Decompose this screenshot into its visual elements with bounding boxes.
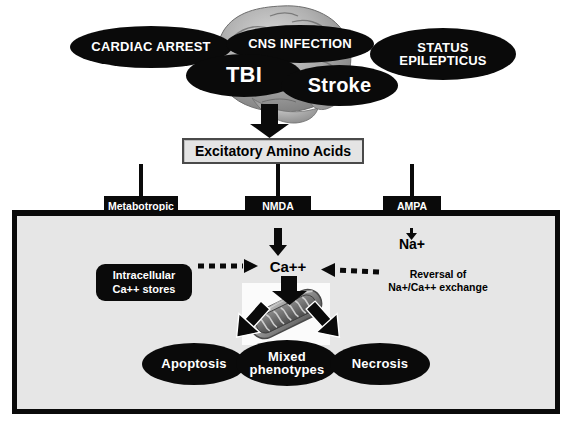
- insult-label: STATUS EPILEPTICUS: [399, 41, 486, 68]
- insult-label: CNS INFECTION: [248, 37, 352, 50]
- insult-status-epilepticus: STATUS EPILEPTICUS: [370, 28, 516, 80]
- outcome-label: Necrosis: [352, 357, 409, 370]
- sodium-text: Na+: [399, 236, 425, 252]
- insult-label-line2: EPILEPTICUS: [399, 53, 486, 68]
- insult-label: CARDIAC ARREST: [91, 40, 210, 53]
- store-label-line1: Intracellular: [113, 269, 175, 282]
- calcium-text: Ca++: [270, 258, 307, 275]
- excitatory-amino-acids-box: Excitatory Amino Acids: [182, 138, 364, 164]
- stem-eaa-to-nmda: [276, 164, 280, 197]
- outcome-mixed-phenotypes: Mixed phenotypes: [236, 340, 338, 386]
- stem-eaa-to-ampa: [410, 164, 414, 197]
- outcome-necrosis: Necrosis: [330, 343, 430, 385]
- outcome-label: Apoptosis: [161, 357, 226, 370]
- insult-stroke: Stroke: [281, 65, 398, 106]
- excitatory-amino-acids-label: Excitatory Amino Acids: [195, 143, 351, 159]
- mitochondrion-illustration: [242, 283, 330, 345]
- outcome-apoptosis: Apoptosis: [142, 343, 246, 385]
- calcium-label: Ca++: [258, 258, 318, 275]
- store-label-line2: Ca++ stores: [113, 283, 176, 296]
- insult-label: TBI: [226, 64, 262, 86]
- stem-eaa-to-metabotropic: [139, 164, 143, 197]
- diagram-canvas: CARDIAC ARREST CNS INFECTION STATUS EPIL…: [0, 0, 572, 429]
- exchange-line1: Reversal of: [410, 268, 467, 280]
- sodium-label: Na+: [382, 236, 442, 252]
- intracellular-calcium-stores-box: Intracellular Ca++ stores: [96, 264, 192, 301]
- outcome-label-line2: phenotypes: [250, 362, 325, 377]
- insult-label: Stroke: [308, 75, 371, 95]
- outcome-label: Mixed phenotypes: [250, 350, 325, 377]
- sodium-calcium-exchange-label: Reversal of Na+/Ca++ exchange: [376, 268, 500, 294]
- exchange-line2: Na+/Ca++ exchange: [388, 281, 488, 293]
